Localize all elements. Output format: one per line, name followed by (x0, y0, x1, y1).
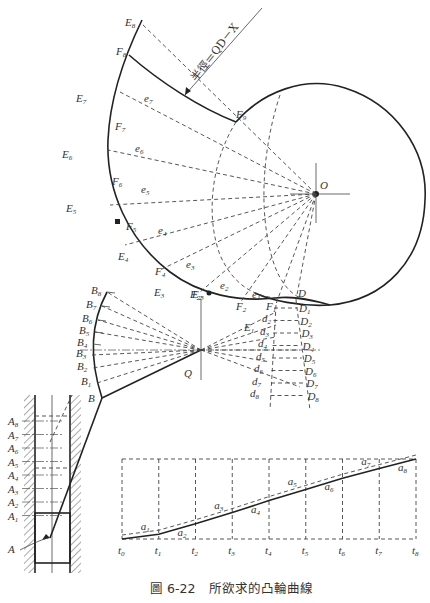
radius-annotation: 半徑＝QD－X (187, 20, 241, 84)
follower-group: AA1A2A3A4A5A6A7A8 (7, 395, 102, 573)
label-A7: A7 (7, 429, 19, 443)
label-F6: F6 (111, 175, 123, 189)
label-E8: E8 (124, 16, 136, 30)
label-D8: D8 (306, 390, 319, 404)
radial-line (296, 194, 316, 300)
label-a7: a7 (361, 455, 371, 469)
label-E5: E5 (65, 202, 77, 216)
label-a6: a6 (325, 480, 335, 494)
pivot-ray (201, 350, 300, 387)
label-F5: F5 (125, 220, 137, 234)
label-A3: A3 (7, 483, 19, 497)
label-E2: E2 (191, 288, 203, 302)
follower-body (35, 513, 70, 563)
label-B4: B4 (77, 336, 88, 350)
label-A5: A5 (7, 456, 19, 470)
displacement-diagram: t0t1t2t3t4t5t6t7t8a1a2a3a4a5a6a7a8 (118, 455, 419, 558)
label-E4: E4 (117, 250, 129, 264)
radial-line (125, 194, 316, 245)
label-A0: A (7, 543, 15, 555)
label-F7: F7 (114, 120, 126, 134)
label-t7: t7 (375, 544, 382, 558)
label-B5: B5 (79, 324, 90, 338)
arm-tick (95, 332, 103, 333)
label-e5: e5 (141, 183, 150, 197)
label-B2: B2 (77, 360, 88, 374)
label-B6: B6 (82, 312, 93, 326)
caption-number: 圖 6-22 (150, 581, 195, 596)
label-A1: A1 (7, 510, 18, 524)
label-D: D (297, 287, 306, 299)
right-guide-hatch (71, 395, 81, 573)
label-t3: t3 (228, 544, 235, 558)
displacement-curve (122, 459, 416, 539)
radial-line (160, 194, 316, 270)
marker-F5 (115, 219, 120, 224)
label-F2: F2 (235, 300, 247, 314)
cam-profile-diagram: O 半徑＝QD－X E8 E7 E6 E5 E4 E3 E1 F9 F8 F7 … (0, 0, 430, 603)
label-F9: F9 (235, 108, 247, 122)
label-e1: e1 (252, 288, 260, 302)
label-B0: B (88, 392, 95, 404)
caption-text: 所欲求的凸輪曲線 (209, 581, 313, 596)
label-t2: t2 (192, 544, 199, 558)
label-Q: Q (184, 367, 192, 379)
arm-ray (98, 320, 201, 350)
cam-group: O 半徑＝QD－X E8 E7 E6 E5 E4 E3 E1 F9 F8 F7 … (61, 8, 425, 335)
label-e7: e7 (144, 92, 153, 106)
label-a8: a8 (398, 461, 408, 475)
label-E1: E1 (243, 321, 254, 335)
label-a2: a2 (178, 526, 188, 540)
label-a4: a4 (251, 503, 261, 517)
label-a1: a1 (141, 520, 150, 534)
label-A2: A2 (7, 496, 19, 510)
cam-center-label: O (320, 179, 328, 191)
label-A4: A4 (7, 469, 19, 483)
radial-line (108, 150, 316, 194)
inner-arc (264, 95, 300, 298)
label-A8: A8 (7, 415, 19, 429)
arrow-icon (185, 87, 191, 95)
label-t1: t1 (155, 544, 162, 558)
label-a3: a3 (214, 499, 224, 513)
label-d8: d8 (250, 387, 260, 401)
label-E3: E3 (153, 286, 165, 300)
arm-tick (98, 320, 106, 321)
label-B1: B1 (81, 375, 91, 389)
cam-base-circle (236, 84, 425, 306)
label-t0: t0 (118, 544, 125, 558)
label-e2: e2 (220, 279, 229, 293)
label-t8: t8 (412, 544, 419, 558)
label-t6: t6 (339, 544, 346, 558)
cam-pitch-segment (129, 55, 236, 122)
left-guide-hatch (24, 395, 34, 573)
label-B7: B7 (86, 298, 97, 312)
label-e6: e6 (135, 142, 144, 156)
cam-profile-curve (108, 20, 330, 305)
arm-ray (107, 292, 201, 350)
prime-circle-arc (212, 122, 275, 298)
label-B8: B8 (91, 284, 102, 298)
arm-tick (93, 344, 101, 345)
radial-line (120, 92, 316, 194)
label-F8: F8 (115, 45, 127, 59)
e-labels: e7 e6 e5 e4 e3 e2 e1 (135, 92, 260, 302)
label-A6: A6 (7, 442, 19, 456)
figure-caption: 圖 6-22 所欲求的凸輪曲線 (150, 581, 313, 596)
label-e4: e4 (158, 224, 167, 238)
label-e3: e3 (186, 258, 195, 272)
label-a5: a5 (288, 475, 298, 489)
label-t4: t4 (265, 544, 272, 558)
label-t5: t5 (302, 544, 309, 558)
arm-ray (93, 350, 201, 368)
arm-ray (95, 332, 201, 350)
radial-line (140, 22, 316, 194)
label-E6: E6 (61, 148, 73, 162)
arm-ray (102, 306, 201, 350)
marker-F23 (207, 291, 212, 296)
follower-link-top (50, 395, 72, 442)
label-E7: E7 (75, 92, 87, 106)
